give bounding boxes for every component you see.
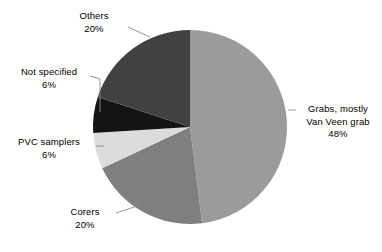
slice-label-corers-name: Corers [52,206,118,219]
pie-chart-figure: Others 20% Not specified 6% PVC samplers… [0,0,382,252]
slice-label-not-specified-name: Not specified [6,66,92,79]
slice-label-others-name: Others [58,10,130,23]
slice-label-grabs-name-line1: Grabs, mostly [296,103,380,116]
pie-slice-grabs[interactable] [190,30,287,223]
slice-label-pvc-samplers-name: PVC samplers [2,136,96,149]
slice-label-not-specified: Not specified 6% [6,66,92,91]
slice-label-corers: Corers 20% [52,206,118,231]
slice-label-grabs-name-line2: Van Veen grab [296,116,380,129]
slice-label-others: Others 20% [58,10,130,35]
slice-label-others-value: 20% [58,23,130,36]
slice-label-grabs-value: 48% [296,128,380,141]
leader-line-others [128,27,150,37]
slice-label-grabs: Grabs, mostly Van Veen grab 48% [296,103,380,141]
slice-label-pvc-samplers-value: 6% [2,149,96,162]
slice-label-corers-value: 20% [52,219,118,232]
slice-label-pvc-samplers: PVC samplers 6% [2,136,96,161]
leader-line-corers [116,205,140,213]
slice-label-not-specified-value: 6% [6,79,92,92]
